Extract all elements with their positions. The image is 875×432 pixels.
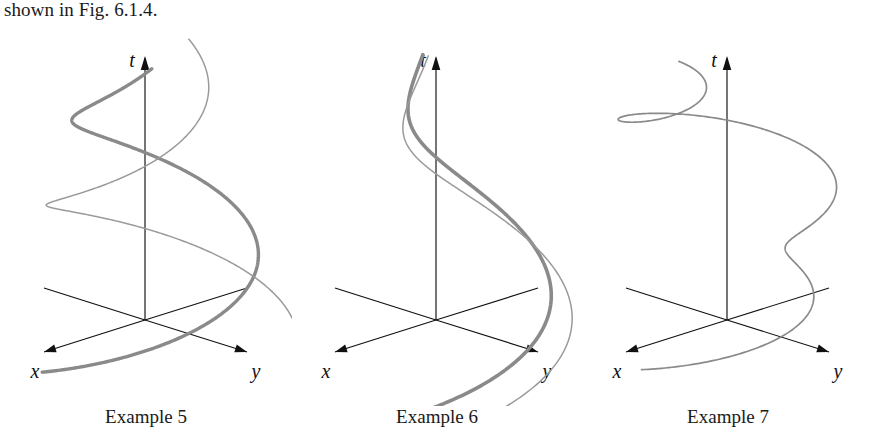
panel-caption: Example 5	[0, 406, 292, 428]
y-axis-arrow-icon	[234, 344, 247, 352]
panel-caption: Example 7	[582, 406, 874, 428]
t-axis-label: t	[129, 49, 135, 71]
x-axis-line	[44, 320, 145, 352]
figure-page: shown in Fig. 6.1.4. txy Example 5 txy E…	[0, 0, 875, 432]
t-axis-label: t	[711, 49, 717, 71]
panel-caption: Example 6	[291, 406, 583, 428]
t-axis-arrow-icon	[432, 56, 441, 70]
trajectory-curve	[369, 55, 551, 406]
lead-text: shown in Fig. 6.1.4.	[4, 0, 158, 21]
trajectory-curve	[42, 69, 258, 372]
figure-panel-example-6: txy Example 6	[291, 26, 583, 432]
plot-canvas-example-6: txy	[291, 26, 583, 406]
x-axis-arrow-icon	[626, 344, 639, 352]
plot-canvas-example-7: txy	[582, 26, 874, 406]
x-axis-line	[335, 320, 436, 352]
x-axis-label: x	[321, 360, 331, 382]
y-axis-line	[436, 320, 538, 352]
y-axis-negative	[44, 288, 145, 320]
trajectory-curve	[403, 56, 572, 406]
y-axis-negative	[626, 288, 727, 320]
trajectory-curve	[46, 39, 292, 343]
x-axis-arrow-icon	[44, 344, 57, 352]
y-axis-negative	[335, 288, 436, 320]
t-axis-arrow-icon	[723, 56, 732, 70]
figure-panel-example-5: txy Example 5	[0, 26, 292, 432]
t-axis-arrow-icon	[141, 56, 150, 70]
plot-canvas-example-5: txy	[0, 26, 292, 406]
y-axis-label: y	[832, 360, 843, 383]
x-axis-arrow-icon	[335, 344, 348, 352]
x-axis-negative	[436, 288, 538, 320]
figure-panel-example-7: txy Example 7	[582, 26, 874, 432]
x-axis-label: x	[30, 360, 40, 382]
y-axis-arrow-icon	[816, 344, 829, 352]
y-axis-label: y	[250, 360, 261, 383]
x-axis-label: x	[612, 360, 622, 382]
x-axis-line	[626, 320, 727, 352]
y-axis-line	[727, 320, 829, 352]
